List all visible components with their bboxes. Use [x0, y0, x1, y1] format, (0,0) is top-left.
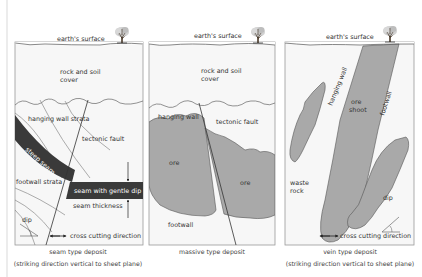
- vein-waste-label-1: waste: [290, 179, 309, 187]
- seam-footwall-label: footwall strata: [16, 178, 62, 186]
- massive-hanging-wall-label: hanging wall: [158, 113, 199, 121]
- massive-fault-label: tectonic fault: [216, 118, 259, 126]
- massive-surface-label: earth's surface: [194, 32, 242, 40]
- seam-cross-cut-label: cross cutting direction: [70, 232, 141, 240]
- vein-ore-label-2: shoot: [349, 106, 367, 114]
- vein-caption-sub: (striking direction vertical to sheet pl…: [286, 260, 414, 268]
- seam-cover-label-2: cover: [60, 76, 78, 84]
- vein-cross-cut-label: cross cutting direction: [340, 232, 411, 240]
- vein-ore-label-1: ore: [351, 98, 361, 106]
- massive-ore-label-1: ore: [169, 159, 179, 167]
- vein-caption: vein type deposit: [323, 248, 377, 256]
- massive-footwall-label: footwall: [168, 221, 193, 229]
- vein-dip-label: dip: [383, 194, 393, 202]
- seam-fault-label: tectonic fault: [82, 135, 125, 143]
- massive-cover-label-1: rock and soil: [201, 67, 242, 75]
- seam-thickness-label: seam thickness: [73, 202, 123, 210]
- vein-surface-label: earth's surface: [326, 33, 374, 41]
- mineral-deposit-types-diagram: earth's surface rock and soil cover hang…: [0, 0, 422, 277]
- vein-waste-label-2: rock: [290, 187, 304, 195]
- seam-hanging-wall-label: hanging wall strata: [28, 115, 90, 123]
- seam-caption-sub: (striking direction vertical to sheet pl…: [14, 260, 142, 268]
- seam-surface-label: earth's surface: [57, 35, 105, 43]
- massive-cover-label-2: cover: [201, 75, 219, 83]
- seam-dip-label: dip: [22, 216, 32, 224]
- seam-gentle-label: seam with gentle dip: [74, 187, 141, 195]
- panel-vein-deposit: earth's surface hanging wall ore shoot f…: [285, 26, 414, 268]
- massive-ore-label-2: ore: [240, 179, 250, 187]
- panel-seam-deposit: earth's surface rock and soil cover hang…: [14, 27, 143, 268]
- seam-cover-label-1: rock and soil: [60, 68, 101, 76]
- seam-caption: seam type deposit: [49, 248, 107, 256]
- massive-caption: massive type deposit: [179, 248, 246, 256]
- panel-massive-deposit: earth's surface rock and soil cover hang…: [149, 27, 275, 256]
